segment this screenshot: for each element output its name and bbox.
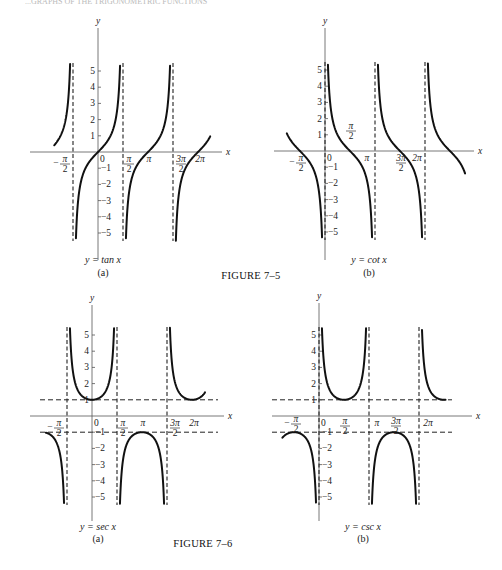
origin-label: 0 (321, 418, 326, 428)
y-tick-label: 3 (90, 98, 95, 108)
x-tick-label: π (299, 153, 304, 163)
svg-text:2: 2 (399, 163, 404, 173)
y-tick-label: 1 (311, 395, 316, 405)
sec-curve (170, 328, 205, 400)
csc-curve (282, 432, 316, 502)
cot-curve (428, 63, 465, 173)
csc-graph: xy12345−1−2−3−4−50−π2π2π3π22πy = csc x(b… (272, 291, 481, 545)
x-tick-label: π (365, 153, 370, 163)
y-tick-label: 5 (84, 330, 89, 340)
svg-text:2: 2 (299, 163, 304, 173)
csc-curve (372, 432, 416, 504)
y-tick-label: 3 (311, 362, 316, 372)
figure-canvas: ...GRAPHS OF THE TRIGONOMETRIC FUNCTIONS… (0, 0, 502, 570)
y-tick-label: −1 (95, 427, 105, 437)
csc-caption: y = csc x (344, 521, 381, 532)
x-tick-label: π (121, 418, 126, 428)
y-tick-label: 2 (90, 115, 95, 125)
x-axis-label: x (475, 411, 481, 421)
x-tick-label: π (343, 416, 348, 426)
x-tick-label: π (63, 154, 68, 164)
y-tick-label: −3 (101, 196, 111, 206)
x-tick-label: 2π (423, 418, 433, 428)
y-tick-label: −2 (328, 178, 338, 188)
x-tick-label: 2π (195, 154, 205, 164)
y-tick-label: 1 (317, 130, 322, 140)
y-tick-label: 4 (84, 346, 89, 356)
y-axis-label: y (95, 16, 101, 26)
x-tick-label: 3π (169, 418, 180, 428)
y-tick-label: −2 (95, 443, 105, 453)
sec-curve (46, 433, 64, 503)
x-tick-label: 3π (390, 416, 401, 426)
sec-graph: xy12345−1−2−3−4−50−π2π2π3π22πy = sec x(a… (30, 293, 233, 545)
tan-caption: y = tan x (84, 254, 121, 265)
svg-text:2: 2 (121, 428, 126, 438)
svg-text:2: 2 (179, 164, 184, 174)
svg-text:2: 2 (349, 131, 354, 141)
svg-text:2: 2 (394, 426, 399, 436)
y-tick-label: 5 (317, 65, 322, 75)
y-tick-label: −3 (328, 195, 338, 205)
origin-label: 0 (100, 154, 105, 164)
origin-label: 0 (327, 153, 332, 163)
x-tick-label: 3π (175, 154, 186, 164)
y-tick-label: 3 (317, 97, 322, 107)
x-tick-label: π (375, 418, 380, 428)
csc-curve (322, 328, 366, 400)
y-tick-label: 3 (84, 362, 89, 372)
y-tick-label: −4 (101, 212, 111, 222)
y-tick-label: −3 (322, 460, 332, 470)
cot-caption: y = cot x (350, 254, 387, 265)
x-tick-label: π (147, 154, 152, 164)
y-tick-label: −2 (322, 443, 332, 453)
y-tick-label: 4 (311, 346, 316, 356)
x-tick-label: π (57, 418, 62, 428)
figure-7-5-caption: FIGURE 7–5 (221, 270, 280, 281)
y-tick-label: −5 (322, 492, 332, 502)
y-tick-label: −2 (101, 179, 111, 189)
y-tick-label: −1 (101, 163, 111, 173)
y-tick-label: −5 (101, 228, 111, 238)
sec-caption: y = sec x (79, 521, 116, 532)
cot-panel-label: (b) (363, 267, 375, 279)
tan-graph: xy12345−1−2−3−4−50−π2π2π3π22πy = tan x(a… (30, 16, 231, 279)
y-tick-label: −3 (95, 460, 105, 470)
y-tick-label: 2 (84, 379, 89, 389)
y-tick-label: 5 (90, 66, 95, 76)
page-header: ...GRAPHS OF THE TRIGONOMETRIC FUNCTIONS (25, 0, 207, 6)
y-tick-label: 2 (311, 379, 316, 389)
x-tick-label: 2π (412, 153, 422, 163)
x-axis-label: x (225, 147, 231, 157)
svg-text:2: 2 (127, 164, 132, 174)
svg-text:−: − (53, 158, 58, 168)
y-tick-label: −4 (328, 211, 338, 221)
x-axis-label: x (477, 146, 483, 156)
svg-text:2: 2 (343, 426, 348, 436)
y-tick-label: 4 (90, 82, 95, 92)
y-tick-label: −1 (322, 427, 332, 437)
x-tick-label: π (127, 154, 132, 164)
x-tick-label: π (294, 414, 299, 424)
svg-text:−: − (47, 422, 52, 432)
svg-text:2: 2 (63, 164, 68, 174)
sec-curve (120, 432, 164, 504)
y-axis-label: y (89, 293, 95, 303)
y-tick-label: 5 (311, 330, 316, 340)
y-tick-label: −4 (95, 476, 105, 486)
svg-text:2: 2 (173, 428, 178, 438)
y-tick-label: 1 (90, 131, 95, 141)
y-tick-label: 2 (317, 114, 322, 124)
svg-text:2: 2 (294, 424, 299, 434)
x-tick-label: π (349, 121, 354, 131)
tan-panel-label: (a) (97, 267, 108, 279)
csc-panel-label: (b) (357, 533, 369, 545)
cot-curve (287, 133, 322, 237)
x-tick-label: π (141, 418, 146, 428)
y-tick-label: −1 (328, 162, 338, 172)
tan-curve (54, 64, 70, 145)
cot-graph: xy12345−1−2−3−4−50−π2π2π3π22πy = cot x(b… (274, 16, 483, 279)
svg-text:2: 2 (57, 428, 62, 438)
svg-text:−: − (284, 418, 289, 428)
y-axis-label: y (316, 291, 322, 301)
